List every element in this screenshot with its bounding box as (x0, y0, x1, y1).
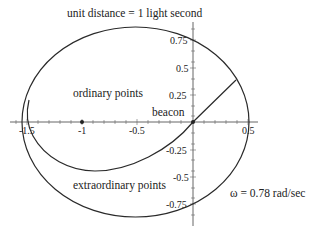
diagram-title: unit distance = 1 light second (67, 7, 202, 20)
beacon-point (191, 120, 195, 124)
y-tick-label: -0.5 (173, 172, 189, 183)
center-point (80, 120, 84, 124)
y-tick-label: 0.5 (176, 63, 189, 74)
x-tick-label: -0.5 (129, 125, 145, 136)
beacon-label: beacon (152, 106, 185, 118)
x-tick-label: -1 (78, 125, 86, 136)
omega-label: ω = 0.78 rad/sec (230, 187, 305, 199)
extraordinary-points-label: extraordinary points (73, 179, 166, 192)
y-tick-label: -0.25 (166, 145, 187, 156)
ordinary-points-label: ordinary points (73, 87, 143, 100)
light-cone-diagram: unit distance = 1 light second (0, 0, 318, 235)
y-tick-label: 0.25 (169, 90, 187, 101)
